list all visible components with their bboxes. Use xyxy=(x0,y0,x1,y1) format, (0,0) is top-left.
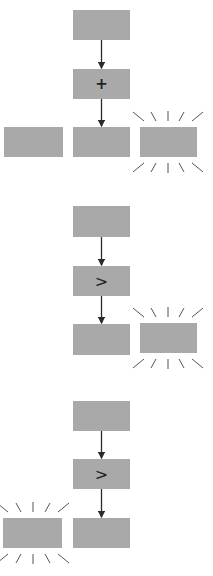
highlight-rays-icon xyxy=(0,502,69,564)
connectors-and-highlights xyxy=(0,0,213,576)
highlight-rays-icon xyxy=(133,111,203,173)
highlight-rays-icon xyxy=(133,307,203,369)
